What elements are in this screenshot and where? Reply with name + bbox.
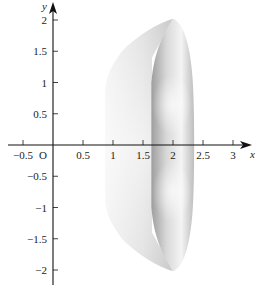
y-axis-label: y (41, 0, 47, 12)
origin-label: O (39, 149, 47, 161)
x-tick-label: 2.5 (196, 149, 210, 161)
y-tick-label: 1 (42, 77, 48, 89)
figure: −0.50.511.522.5321.510.5−0.5−1−1.5−2Oxy (0, 0, 258, 293)
y-tick-label: 0.5 (33, 108, 47, 120)
x-tick-label: 3 (230, 149, 236, 161)
y-tick-label: 1.5 (33, 45, 47, 57)
x-tick-label: −0.5 (13, 149, 33, 161)
x-tick-label: 1 (110, 149, 116, 161)
x-tick-label: 0.5 (76, 149, 90, 161)
x-axis-label: x (249, 148, 255, 160)
plot-canvas: −0.50.511.522.5321.510.5−0.5−1−1.5−2Oxy (0, 0, 258, 293)
y-tick-label: 2 (42, 14, 48, 26)
y-tick-label: −1.5 (27, 233, 47, 245)
x-tick-label: 1.5 (136, 149, 150, 161)
y-tick-label: −0.5 (27, 170, 47, 182)
y-tick-label: −2 (35, 264, 47, 276)
x-tick-label: 2 (170, 149, 176, 161)
y-tick-label: −1 (35, 202, 47, 214)
